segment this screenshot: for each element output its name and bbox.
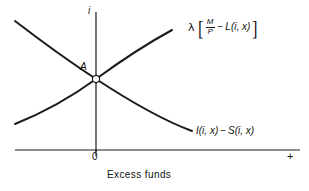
saving-function: S(i, x) <box>228 126 254 136</box>
goods-market-curve <box>15 21 192 131</box>
plot-area <box>0 0 309 191</box>
minus-operator: − <box>218 22 224 32</box>
fraction-denominator: P <box>207 28 214 36</box>
bracket-close: ] <box>252 19 257 37</box>
economics-diagram-figure: i 0 + Excess funds A λ [ M P − L(i, x) ]… <box>0 0 309 191</box>
liquidity-function: L(i, x) <box>225 22 250 32</box>
intersection-point-label: A <box>80 62 87 72</box>
y-axis-label: i <box>88 6 90 16</box>
x-axis-title: Excess funds <box>107 170 171 180</box>
bracket-open: [ <box>197 19 202 37</box>
lambda-symbol: λ <box>188 22 195 33</box>
fraction-numerator: M <box>206 18 215 26</box>
minus-operator-lower: − <box>220 126 226 136</box>
investment-function: I(i, x) <box>196 126 218 136</box>
goods-market-curve-label: I(i, x) − S(i, x) <box>196 126 254 136</box>
x-axis-positive-end-label: + <box>287 151 293 162</box>
money-market-curve-label: λ [ M P − L(i, x) ] <box>188 18 260 37</box>
real-money-balances-fraction: M P <box>206 18 215 37</box>
intersection-marker <box>92 75 99 82</box>
origin-tick-label: 0 <box>92 152 98 162</box>
